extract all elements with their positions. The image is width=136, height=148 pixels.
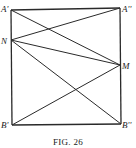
label-N: N xyxy=(0,36,8,46)
label-B2: B'' xyxy=(122,120,132,130)
label-M: M xyxy=(121,61,130,71)
segment-A1-M xyxy=(11,10,120,65)
segment-A2-B2 xyxy=(120,8,121,124)
segment-B1-M xyxy=(12,65,120,125)
label-B1: B' xyxy=(1,120,9,130)
segment-B2-B1 xyxy=(12,124,121,125)
figure-caption: FIG. 26 xyxy=(53,137,83,147)
label-A2: A'' xyxy=(121,4,132,14)
segment-N-A2 xyxy=(11,8,120,40)
label-A1: A' xyxy=(0,4,9,14)
segment-B1-A1 xyxy=(11,10,12,125)
segment-A1-A2 xyxy=(11,8,120,10)
geometry-figure: A' A'' N M B' B'' FIG. 26 xyxy=(0,0,136,148)
